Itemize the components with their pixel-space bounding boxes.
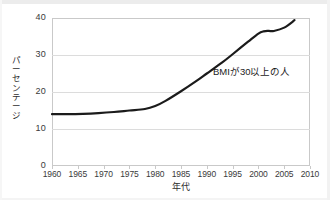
- series-layer: [0, 0, 330, 200]
- screenshot-root: 010203040 196019651970197519801985199019…: [0, 0, 330, 200]
- line-chart-figure: 010203040 196019651970197519801985199019…: [0, 0, 330, 200]
- annotation-bmi-over-30: BMIが30以上の人: [213, 64, 290, 78]
- y-axis-title: パーセンテージ: [10, 56, 22, 120]
- y-axis-title-char: ジ: [10, 111, 22, 120]
- x-axis-title: 年代: [52, 180, 310, 193]
